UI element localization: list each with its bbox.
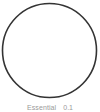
figure-root: Essential 0.1 xyxy=(0,0,100,112)
caption-value: 0.1 xyxy=(63,104,73,112)
shape-canvas xyxy=(0,0,100,101)
caption: Essential 0.1 xyxy=(0,104,100,112)
circle-outline-svg xyxy=(0,0,100,101)
caption-label: Essential xyxy=(27,104,56,112)
circle-outline-icon xyxy=(3,4,97,98)
